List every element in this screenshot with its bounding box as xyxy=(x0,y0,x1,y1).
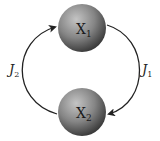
node-x2: X2 xyxy=(58,88,106,136)
edge-j2-arrow xyxy=(22,27,57,114)
edge-j2-label: J2 xyxy=(6,62,19,79)
edge-j1-arrow xyxy=(107,25,140,114)
edge-j1-label: J1 xyxy=(139,62,152,79)
diagram-canvas: X1 X2 J1 J2 xyxy=(0,0,160,141)
cycle-diagram: X1 X2 J1 J2 xyxy=(0,0,160,141)
node-x1: X1 xyxy=(58,4,106,52)
